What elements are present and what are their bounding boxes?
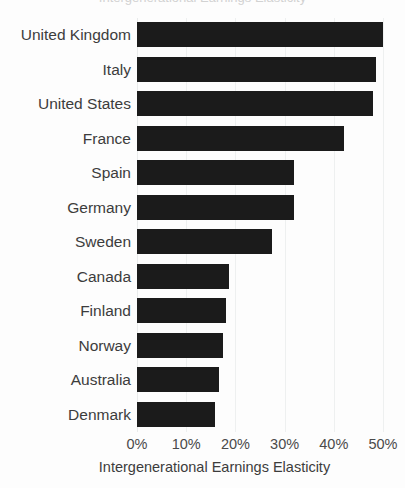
plot-area: [137, 18, 383, 432]
bar: [137, 264, 229, 289]
bar-row: [137, 122, 383, 157]
bar: [137, 195, 294, 220]
y-tick-label: Italy: [1, 53, 131, 88]
y-tick-label-wrap: Finland: [0, 294, 131, 329]
bar: [137, 402, 215, 427]
y-tick-label: United States: [1, 87, 131, 122]
x-tick-label: 50%: [353, 435, 405, 453]
bar: [137, 333, 223, 358]
y-tick-label-wrap: Australia: [0, 363, 131, 398]
x-axis-title: Intergenerational Earnings Elasticity: [0, 459, 405, 475]
y-tick-label: Finland: [1, 294, 131, 329]
bar-row: [137, 53, 383, 88]
bar-row: [137, 156, 383, 191]
y-tick-label: Germany: [1, 191, 131, 226]
y-tick-label-wrap: United Kingdom: [0, 18, 131, 53]
y-tick-label: United Kingdom: [1, 18, 131, 53]
bar: [137, 126, 344, 151]
bar: [137, 229, 272, 254]
y-tick-label-wrap: Norway: [0, 329, 131, 364]
bar: [137, 57, 376, 82]
bar-row: [137, 260, 383, 295]
gridline-50: [383, 18, 384, 432]
bar: [137, 160, 294, 185]
y-tick-label: Canada: [1, 260, 131, 295]
bar-row: [137, 363, 383, 398]
bar-row: [137, 398, 383, 433]
y-tick-label: Denmark: [1, 398, 131, 433]
chart-title-text: Intergenerational Earnings Elasticity: [99, 0, 306, 5]
y-tick-label-wrap: Sweden: [0, 225, 131, 260]
y-tick-label: Spain: [1, 156, 131, 191]
y-tick-label-wrap: Spain: [0, 156, 131, 191]
bar: [137, 298, 226, 323]
chart-title-clipped: Intergenerational Earnings Elasticity: [0, 0, 405, 5]
y-axis-category-labels: United KingdomItalyUnited StatesFranceSp…: [0, 18, 131, 432]
y-tick-label: Australia: [1, 363, 131, 398]
bar-chart: Intergenerational Earnings Elasticity Un…: [0, 0, 405, 488]
bar: [137, 91, 373, 116]
y-tick-label-wrap: Canada: [0, 260, 131, 295]
bar-row: [137, 87, 383, 122]
y-tick-label-wrap: Germany: [0, 191, 131, 226]
y-tick-label: France: [1, 122, 131, 157]
y-tick-label: Norway: [1, 329, 131, 364]
y-tick-label-wrap: France: [0, 122, 131, 157]
y-tick-label: Sweden: [1, 225, 131, 260]
y-tick-label-wrap: Denmark: [0, 398, 131, 433]
bar: [137, 22, 383, 47]
bar-row: [137, 294, 383, 329]
bar-row: [137, 329, 383, 364]
bar-row: [137, 18, 383, 53]
bar-row: [137, 225, 383, 260]
y-tick-label-wrap: United States: [0, 87, 131, 122]
y-tick-label-wrap: Italy: [0, 53, 131, 88]
bar-row: [137, 191, 383, 226]
x-axis-tick-labels: 0%10%20%30%40%50%: [0, 435, 405, 455]
bar: [137, 367, 219, 392]
